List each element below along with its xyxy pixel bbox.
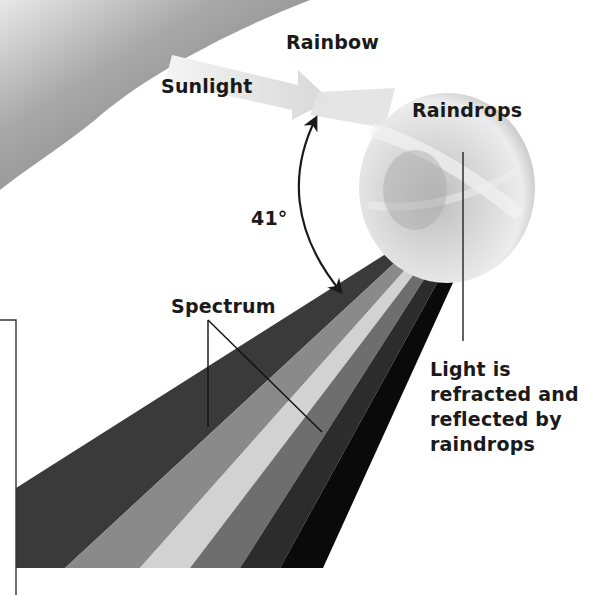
angle-label: 41°	[251, 206, 288, 230]
left-bracket-line	[0, 320, 16, 595]
angle-arc-arrow	[299, 118, 341, 292]
rainbow-diagram	[0, 0, 597, 595]
explanation-label: Light is refracted and reflected by rain…	[430, 357, 590, 457]
spectrum-label: Spectrum	[171, 294, 276, 318]
sunlight-label: Sunlight	[161, 74, 253, 98]
rainbow-label: Rainbow	[286, 30, 379, 54]
raindrops-label: Raindrops	[412, 98, 522, 122]
